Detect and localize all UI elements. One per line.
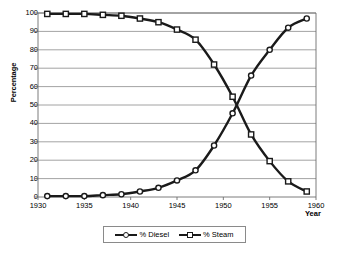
plot-area <box>0 0 345 254</box>
data-point-square-marker-icon <box>304 189 309 194</box>
legend-item-label: % Steam <box>203 230 233 239</box>
data-point-circle-marker-icon <box>211 143 216 148</box>
data-point-square-marker-icon <box>45 11 50 16</box>
data-point-square-marker-icon <box>286 179 291 184</box>
series-diesel <box>45 16 310 199</box>
x-axis-tick-label: 1955 <box>253 202 287 210</box>
series-line <box>47 14 306 192</box>
data-point-square-marker-icon <box>174 27 179 32</box>
data-point-square-marker-icon <box>119 13 124 18</box>
data-point-square-marker-icon <box>267 159 272 164</box>
x-axis-tick-labels: 1930193519401945195019551960 <box>0 199 345 213</box>
gridlines <box>38 13 316 179</box>
x-axis-tick-label: 1930 <box>21 202 55 210</box>
data-point-circle-marker-icon <box>100 193 105 198</box>
series-steam <box>45 11 310 194</box>
axes <box>35 13 316 200</box>
data-point-circle-marker-icon <box>174 178 179 183</box>
data-point-circle-marker-icon <box>193 168 198 173</box>
data-point-square-marker-icon <box>211 62 216 67</box>
series-line <box>47 19 306 197</box>
data-point-square-marker-icon <box>63 11 68 16</box>
data-point-circle-marker-icon <box>45 193 50 198</box>
data-point-circle-marker-icon <box>137 189 142 194</box>
data-point-square-marker-icon <box>193 37 198 42</box>
data-point-square-marker-icon <box>249 132 254 137</box>
data-point-circle-marker-icon <box>267 47 272 52</box>
data-point-circle-marker-icon <box>63 193 68 198</box>
legend-item: % Diesel <box>115 230 169 239</box>
data-point-square-marker-icon <box>230 94 235 99</box>
x-axis-tick-label: 1945 <box>160 202 194 210</box>
legend-item-label: % Diesel <box>139 230 169 239</box>
data-point-square-marker-icon <box>100 12 105 17</box>
chart-container: Percentage 1009080706050403020100 193019… <box>0 0 345 254</box>
legend-item: % Steam <box>179 230 233 239</box>
data-point-circle-marker-icon <box>82 193 87 198</box>
x-axis-tick-label: 1940 <box>114 202 148 210</box>
data-point-circle-marker-icon <box>304 16 309 21</box>
data-point-circle-marker-icon <box>286 25 291 30</box>
square-marker-icon <box>179 230 201 239</box>
data-point-square-marker-icon <box>137 16 142 21</box>
data-point-circle-marker-icon <box>119 192 124 197</box>
data-point-circle-marker-icon <box>249 73 254 78</box>
x-axis-title: Year <box>305 209 321 218</box>
x-axis-tick-label: 1935 <box>67 202 101 210</box>
chart-legend: % Diesel% Steam <box>103 226 246 243</box>
data-point-circle-marker-icon <box>230 111 235 116</box>
data-point-square-marker-icon <box>82 11 87 16</box>
circle-marker-icon <box>115 230 137 239</box>
data-point-circle-marker-icon <box>156 185 161 190</box>
data-point-square-marker-icon <box>156 20 161 25</box>
x-axis-tick-label: 1950 <box>206 202 240 210</box>
